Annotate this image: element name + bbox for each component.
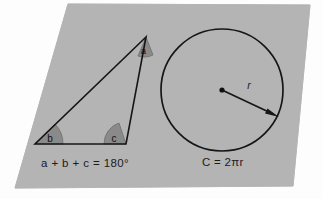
triangle-caption: a + b + c = 180° [41,157,129,169]
angle-label-c: c [112,133,117,144]
angle-label-a: a [141,45,147,56]
geometry-figure: a b c a + b + c = 180° r C = 2πr [0,0,323,199]
circle-caption: C = 2πr [202,156,244,168]
figure-canvas: a b c a + b + c = 180° r C = 2πr [0,0,323,199]
radius-label: r [247,79,251,91]
angle-label-b: b [47,133,53,144]
